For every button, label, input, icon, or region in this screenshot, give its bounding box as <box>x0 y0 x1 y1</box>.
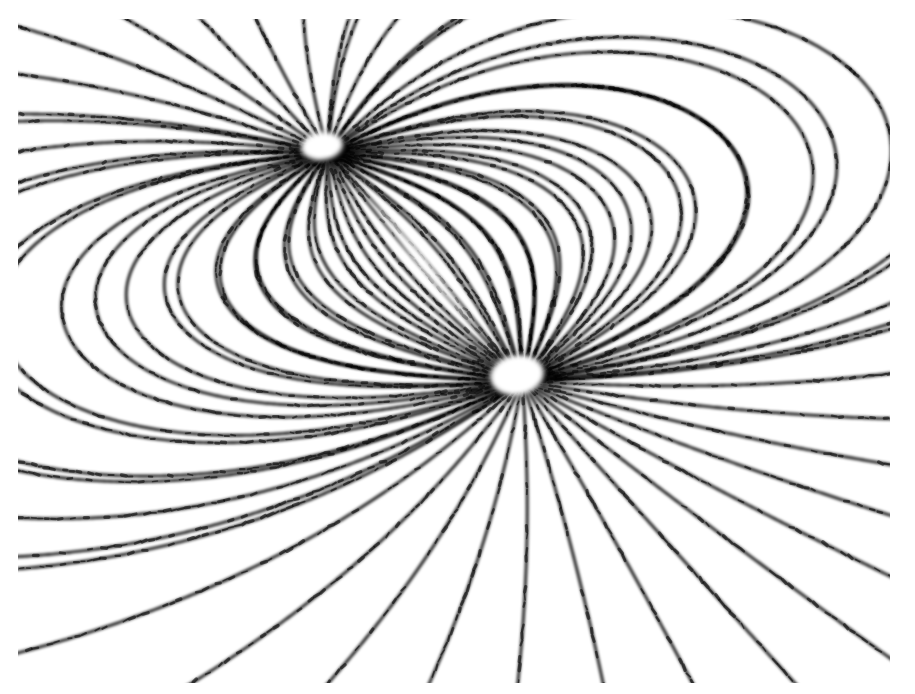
field-figure: Magnetic Dipole Field Lines Iron filings… <box>0 0 915 694</box>
magnetic-field-canvas <box>0 0 915 694</box>
